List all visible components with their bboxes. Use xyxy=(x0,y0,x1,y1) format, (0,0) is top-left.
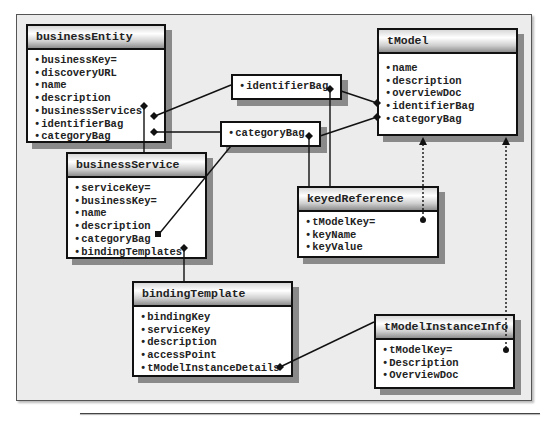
entity-title: businessEntity xyxy=(28,26,164,50)
field-categoryBag: categoryBag xyxy=(385,113,516,126)
field-list: tModelKey= Description OverviewDoc xyxy=(376,340,513,382)
bag-label: identifierBag xyxy=(239,80,328,92)
field-list: serviceKey= businessKey= name descriptio… xyxy=(68,178,205,258)
field-tModelInstanceDetails: tModelInstanceDetails xyxy=(140,362,291,375)
entity-tModelInstanceInfo: tModelInstanceInfo tModelKey= Descriptio… xyxy=(374,314,515,389)
bag-label: categoryBag xyxy=(228,127,305,139)
field-description: description xyxy=(34,92,164,105)
entity-businessService: businessService serviceKey= businessKey=… xyxy=(66,152,207,259)
field-list: tModelKey= keyName keyValue xyxy=(299,212,437,254)
entity-bindingTemplate: bindingTemplate bindingKey serviceKey de… xyxy=(132,281,293,377)
field-bindingKey: bindingKey xyxy=(140,311,291,324)
field-overviewDoc: overviewDoc xyxy=(385,87,516,100)
entity-keyedReference: keyedReference tModelKey= keyName keyVal… xyxy=(297,186,439,258)
bottom-rule-divider xyxy=(80,413,540,414)
field-description: description xyxy=(140,336,291,349)
field-bindingTemplates: bindingTemplates xyxy=(74,246,205,259)
field-list: bindingKey serviceKey description access… xyxy=(134,307,291,375)
field-businessServices: businessServices xyxy=(34,105,164,118)
field-discoveryURL: discoveryURL xyxy=(34,67,164,80)
entity-title: tModelInstanceInfo xyxy=(376,316,513,340)
entity-tModel: tModel name description overviewDoc iden… xyxy=(377,28,518,136)
field-accessPoint: accessPoint xyxy=(140,349,291,362)
entity-title: keyedReference xyxy=(299,188,437,212)
field-tModelKey: tModelKey= xyxy=(382,344,513,357)
entity-title: bindingTemplate xyxy=(134,283,291,307)
bag-identifierBag: identifierBag xyxy=(231,74,342,100)
field-businessKey: businessKey= xyxy=(34,54,164,67)
field-name: name xyxy=(385,62,516,75)
bag-categoryBag: categoryBag xyxy=(220,121,321,147)
field-serviceKey: serviceKey= xyxy=(74,182,205,195)
field-keyName: keyName xyxy=(305,229,437,242)
field-description: description xyxy=(74,220,205,233)
field-Description: Description xyxy=(382,357,513,370)
field-identifierBag: identifierBag xyxy=(385,100,516,113)
entity-businessEntity: businessEntity businessKey= discoveryURL… xyxy=(26,24,166,143)
field-name: name xyxy=(34,79,164,92)
field-list: businessKey= discoveryURL name descripti… xyxy=(28,50,164,143)
field-OverviewDoc: OverviewDoc xyxy=(382,369,513,382)
entity-title: businessService xyxy=(68,154,205,178)
field-description: description xyxy=(385,75,516,88)
entity-title: tModel xyxy=(379,30,516,54)
field-serviceKey: serviceKey xyxy=(140,324,291,337)
field-name: name xyxy=(74,207,205,220)
field-identifierBag: identifierBag xyxy=(34,118,164,131)
field-categoryBag: categoryBag xyxy=(34,130,164,143)
field-categoryBag: categoryBag xyxy=(74,233,205,246)
field-tModelKey: tModelKey= xyxy=(305,216,437,229)
field-businessKey: businessKey= xyxy=(74,195,205,208)
field-keyValue: keyValue xyxy=(305,241,437,254)
field-list: name description overviewDoc identifierB… xyxy=(379,54,516,126)
